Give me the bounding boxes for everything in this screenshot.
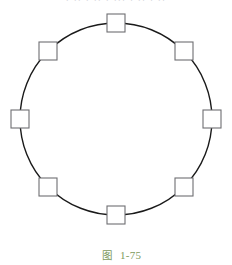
figure-caption-gap: [112, 249, 120, 261]
figure-caption: 图 1-75: [0, 234, 232, 265]
square-right: [203, 110, 221, 128]
figure-caption-number: 1-75: [120, 249, 141, 261]
squares-group: [11, 14, 221, 224]
square-bottom-right: [175, 178, 193, 196]
square-top-left: [39, 42, 57, 60]
figure-caption-label: 图: [102, 249, 112, 261]
square-bottom: [107, 206, 125, 224]
square-top-right: [175, 42, 193, 60]
square-top: [107, 14, 125, 32]
circle-with-squares-diagram: [0, 0, 232, 232]
square-left: [11, 110, 29, 128]
square-bottom-left: [39, 178, 57, 196]
